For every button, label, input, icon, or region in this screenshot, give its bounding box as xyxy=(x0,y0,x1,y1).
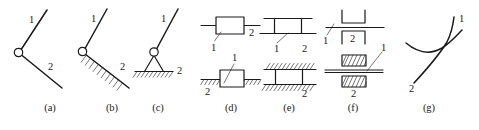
panel-f-upper-variant: 1 2 xyxy=(323,10,384,46)
panel-d-prismatic-block: 1 2 xyxy=(199,0,263,100)
panel-b-label-1: 1 xyxy=(91,13,96,24)
panel-e-lower-label-2: 2 xyxy=(302,88,307,99)
caption-b: (b) xyxy=(97,101,127,115)
caption-a: (a) xyxy=(35,101,65,115)
panel-c-ground-hatching xyxy=(133,72,173,78)
panel-c-revolute-grounded: 1 2 xyxy=(130,0,208,100)
panel-e-upper-leader-1 xyxy=(277,33,288,43)
panel-g-higher-pair: 1 2 xyxy=(392,0,479,100)
panel-g-curve2-path xyxy=(414,17,454,83)
panel-f-lower-label-1: 1 xyxy=(381,42,386,53)
panel-g-label-1: 1 xyxy=(459,13,464,24)
caption-g: (g) xyxy=(414,101,444,115)
kinematic-pair-figure: 1 2 1 2 xyxy=(0,0,479,130)
panel-b-pin-joint-circle xyxy=(78,47,86,55)
panel-f-lower-label-2: 2 xyxy=(351,88,356,99)
caption-c: (c) xyxy=(143,101,173,115)
panel-d-upper-label-2: 2 xyxy=(249,27,254,38)
panel-f-upper-label-1: 1 xyxy=(323,35,328,46)
panel-a-label-2: 2 xyxy=(48,61,53,72)
panel-e-upper-label-2: 2 xyxy=(302,43,307,54)
panel-a-label-1: 1 xyxy=(29,14,34,25)
panel-d-lower-hatching-left xyxy=(201,80,220,85)
caption-row: (a) (b) (c) (d) (e) (f) (g) xyxy=(0,101,479,121)
panel-d-lower-label-1: 1 xyxy=(232,52,237,63)
panel-c-support-triangle xyxy=(145,56,164,72)
panel-d-lower-slider-block xyxy=(220,70,244,87)
panel-d-upper-slider-block xyxy=(216,17,244,34)
panel-f-lower-leader-1 xyxy=(367,52,382,71)
panel-e-lower-variant: 2 xyxy=(262,63,316,99)
panel-c-pin-joint-circle xyxy=(150,48,158,56)
panel-a-link2-line xyxy=(22,55,63,88)
panel-g-label-2: 2 xyxy=(409,83,414,94)
panel-d-lower-variant: 1 2 xyxy=(201,52,261,97)
panel-g-curve1-path xyxy=(406,30,462,52)
caption-f: (f) xyxy=(338,101,368,115)
panel-e-upper-variant: 1 2 xyxy=(260,19,316,55)
caption-e: (e) xyxy=(274,101,304,115)
panel-c-label-2: 2 xyxy=(177,65,182,76)
caption-d: (d) xyxy=(216,101,246,115)
panel-e-prismatic-double-rail: 1 2 xyxy=(258,0,324,100)
panel-f-prismatic-channel: 1 2 xyxy=(320,0,392,100)
panel-c-link1-line xyxy=(156,9,178,50)
panel-f-lower-variant: 1 2 xyxy=(325,42,386,99)
panel-e-lower-top-hatching xyxy=(266,63,314,69)
panel-a-pin-joint-circle xyxy=(14,48,22,56)
panel-b-label-2: 2 xyxy=(120,61,125,72)
panel-d-upper-label-1: 1 xyxy=(211,42,216,53)
panel-c-label-1: 1 xyxy=(161,13,166,24)
panel-f-upper-leader-1 xyxy=(327,24,334,35)
panel-f-upper-label-2: 2 xyxy=(350,33,355,44)
panel-d-lower-label-2: 2 xyxy=(205,86,210,97)
panel-d-upper-variant: 1 2 xyxy=(201,17,260,53)
panel-e-upper-label-1: 1 xyxy=(274,43,279,54)
panel-b-hatching xyxy=(81,55,122,90)
panel-f-upper-bracket-top xyxy=(342,10,365,23)
